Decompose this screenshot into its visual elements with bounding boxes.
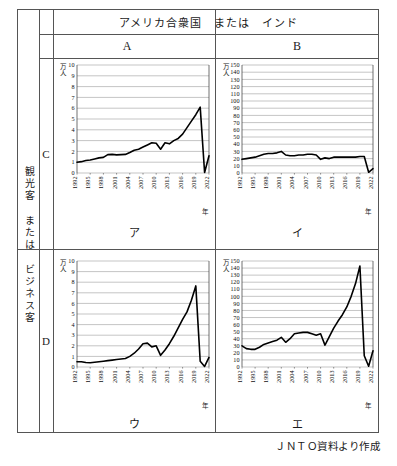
year-axis-label-ac: 年 <box>202 206 209 216</box>
svg-text:2007: 2007 <box>137 371 144 383</box>
svg-text:2019: 2019 <box>354 371 361 383</box>
header-column-a: A <box>39 34 215 58</box>
svg-text:2022: 2022 <box>367 371 374 383</box>
svg-text:140: 140 <box>230 68 239 75</box>
chart-name-b-c: イ <box>216 224 378 240</box>
svg-text:2: 2 <box>71 342 74 349</box>
svg-text:2016: 2016 <box>177 371 184 383</box>
svg-text:2001: 2001 <box>275 371 282 383</box>
svg-text:2013: 2013 <box>163 177 170 189</box>
unit-label-ac: 万 人 <box>55 63 67 77</box>
svg-text:30: 30 <box>233 342 239 349</box>
svg-text:2022: 2022 <box>367 177 374 189</box>
svg-text:6: 6 <box>71 300 74 307</box>
svg-text:90: 90 <box>233 300 239 307</box>
svg-text:110: 110 <box>230 285 239 292</box>
svg-text:2013: 2013 <box>163 371 170 383</box>
svg-text:20: 20 <box>233 349 239 356</box>
unit-label-bd: 万 人 <box>218 259 230 273</box>
svg-text:3: 3 <box>71 331 74 338</box>
svg-text:2016: 2016 <box>177 177 184 189</box>
svg-text:10: 10 <box>68 61 74 68</box>
source-note: ＪＮＴＯ資料より作成 <box>275 438 380 453</box>
svg-text:2010: 2010 <box>315 371 322 383</box>
svg-text:2004: 2004 <box>288 371 295 383</box>
svg-text:7: 7 <box>71 94 74 101</box>
svg-text:4: 4 <box>71 126 74 133</box>
row-label-d: D <box>39 250 53 432</box>
svg-text:20: 20 <box>233 155 239 162</box>
chart-cell-b-d: 0102030405060708090100110120130140150199… <box>216 250 378 432</box>
svg-text:80: 80 <box>233 112 239 119</box>
svg-text:6: 6 <box>71 104 74 111</box>
svg-text:2013: 2013 <box>328 177 335 189</box>
svg-text:100: 100 <box>230 97 239 104</box>
svg-text:1998: 1998 <box>97 371 104 383</box>
svg-text:1992: 1992 <box>71 371 78 383</box>
svg-text:2010: 2010 <box>150 371 157 383</box>
svg-text:130: 130 <box>230 76 239 83</box>
year-axis-label-bd: 年 <box>365 400 372 410</box>
svg-text:40: 40 <box>233 140 239 147</box>
header-column-b: B <box>216 34 378 58</box>
chart-name-b-d: エ <box>216 415 378 431</box>
svg-text:1995: 1995 <box>249 371 256 383</box>
year-axis-label-bc: 年 <box>365 206 372 216</box>
svg-text:8: 8 <box>71 278 74 285</box>
svg-text:10: 10 <box>233 162 239 169</box>
chart-bc-svg: 0102030405060708090100110120130140150199… <box>216 58 379 249</box>
svg-text:2004: 2004 <box>288 177 295 189</box>
svg-text:100: 100 <box>230 293 239 300</box>
svg-text:70: 70 <box>233 119 239 126</box>
svg-text:1: 1 <box>71 353 74 360</box>
svg-text:0: 0 <box>71 363 74 370</box>
svg-text:2007: 2007 <box>302 177 309 189</box>
svg-text:2004: 2004 <box>124 371 131 383</box>
svg-text:10: 10 <box>68 257 74 264</box>
unit-label-ad: 万 人 <box>55 259 67 273</box>
svg-text:1995: 1995 <box>249 177 256 189</box>
chart-cell-a-d: 0123456789101992199519982001200420072010… <box>53 250 215 432</box>
svg-text:7: 7 <box>71 289 74 296</box>
svg-text:0: 0 <box>71 169 74 176</box>
svg-text:10: 10 <box>233 356 239 363</box>
svg-text:2022: 2022 <box>203 177 210 189</box>
svg-text:1992: 1992 <box>236 371 243 383</box>
svg-text:80: 80 <box>233 307 239 314</box>
svg-text:1995: 1995 <box>84 371 91 383</box>
svg-text:50: 50 <box>233 328 239 335</box>
svg-text:2004: 2004 <box>124 177 131 189</box>
svg-text:130: 130 <box>230 271 239 278</box>
svg-text:1998: 1998 <box>262 371 269 383</box>
svg-text:60: 60 <box>233 321 239 328</box>
svg-text:1992: 1992 <box>71 177 78 189</box>
side-label-visitor-type: 観光客 または ビジネス客 <box>18 58 39 432</box>
svg-text:4: 4 <box>71 321 74 328</box>
header-country-choice: アメリカ合衆国 または インド <box>39 10 378 34</box>
unit-label-bc: 万 人 <box>218 63 230 77</box>
svg-text:2010: 2010 <box>315 177 322 189</box>
svg-text:90: 90 <box>233 104 239 111</box>
chart-ad-svg: 0123456789101992199519982001200420072010… <box>53 250 215 433</box>
chart-name-a-d: ウ <box>53 415 215 431</box>
svg-text:0: 0 <box>236 169 239 176</box>
svg-text:1995: 1995 <box>84 177 91 189</box>
svg-text:1992: 1992 <box>236 177 243 189</box>
svg-text:2022: 2022 <box>203 371 210 383</box>
svg-text:2001: 2001 <box>111 371 118 383</box>
svg-text:2007: 2007 <box>137 177 144 189</box>
svg-text:30: 30 <box>233 148 239 155</box>
chart-ac-svg: 0123456789101992199519982001200420072010… <box>53 58 215 249</box>
svg-text:2016: 2016 <box>341 177 348 189</box>
svg-text:2016: 2016 <box>341 371 348 383</box>
figure-page: アメリカ合衆国 または インド A B 観光客 または ビジネス客 C D 01… <box>0 0 397 466</box>
year-axis-label-ad: 年 <box>202 400 209 410</box>
svg-text:2019: 2019 <box>190 177 197 189</box>
svg-text:8: 8 <box>71 83 74 90</box>
chart-name-a-c: ア <box>53 224 215 240</box>
svg-text:1: 1 <box>71 158 74 165</box>
svg-text:150: 150 <box>230 257 239 264</box>
svg-text:5: 5 <box>71 115 74 122</box>
row-label-c: C <box>39 58 53 249</box>
svg-text:2007: 2007 <box>302 371 309 383</box>
